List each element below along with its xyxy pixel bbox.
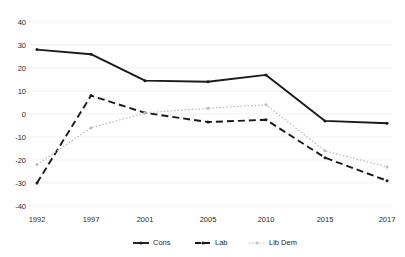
chart-canvas: 403020100-10-20-30-40 199219972001200520… xyxy=(0,0,405,257)
y-axis-tick-label: 30 xyxy=(18,41,26,50)
data-point xyxy=(386,165,389,168)
y-axis-tick-label: -40 xyxy=(15,202,26,211)
data-point xyxy=(36,182,39,185)
gridlines xyxy=(30,22,392,206)
y-axis-tick-label: 0 xyxy=(22,110,26,119)
chart-legend: ConsLabLib Dem xyxy=(133,238,297,247)
data-point xyxy=(144,111,147,114)
legend-swatch-marker xyxy=(255,241,258,244)
data-point xyxy=(324,149,327,152)
series-line xyxy=(37,50,387,124)
x-axis-tick-label: 2010 xyxy=(258,215,275,224)
legend-swatch-marker xyxy=(201,241,204,244)
x-axis-tick-label: 2005 xyxy=(200,215,217,224)
series-line xyxy=(37,96,387,183)
y-axis-tick-labels: 403020100-10-20-30-40 xyxy=(15,18,26,211)
x-axis-tick-label: 2001 xyxy=(137,215,154,224)
series-lib-dem xyxy=(36,103,389,168)
data-point xyxy=(324,156,327,159)
data-point xyxy=(265,103,268,106)
x-axis-tick-label: 2015 xyxy=(317,215,334,224)
data-point xyxy=(90,94,93,97)
data-point xyxy=(265,118,268,121)
legend-item-lab[interactable]: Lab xyxy=(195,238,228,247)
data-point xyxy=(90,126,93,129)
data-point xyxy=(386,122,389,125)
data-point xyxy=(207,121,210,124)
y-axis-tick-label: -10 xyxy=(15,133,26,142)
y-axis-tick-label: -20 xyxy=(15,156,26,165)
data-point xyxy=(207,80,210,83)
x-axis-tick-label: 2017 xyxy=(379,215,396,224)
series-lab xyxy=(36,94,389,184)
legend-swatch-marker xyxy=(139,241,142,244)
data-point xyxy=(36,48,39,51)
y-axis-tick-label: -30 xyxy=(15,179,26,188)
y-axis-tick-label: 10 xyxy=(18,87,26,96)
data-point xyxy=(90,53,93,56)
legend-label: Cons xyxy=(153,238,171,247)
y-axis-tick-label: 20 xyxy=(18,64,26,73)
y-axis-tick-label: 40 xyxy=(18,18,26,27)
legend-item-lib-dem[interactable]: Lib Dem xyxy=(249,238,297,247)
x-axis-tick-label: 1992 xyxy=(29,215,46,224)
x-axis-tick-labels: 1992199720012005201020152017 xyxy=(29,215,396,224)
legend-item-cons[interactable]: Cons xyxy=(133,238,171,247)
data-point xyxy=(265,73,268,76)
legend-label: Lab xyxy=(215,238,228,247)
x-axis-tick-label: 1997 xyxy=(83,215,100,224)
data-point xyxy=(386,179,389,182)
data-point xyxy=(144,79,147,82)
legend-label: Lib Dem xyxy=(269,238,297,247)
data-point xyxy=(36,163,39,166)
series-cons xyxy=(36,48,389,125)
data-series-layer xyxy=(36,48,389,184)
data-point xyxy=(207,107,210,110)
line-chart: 403020100-10-20-30-40 199219972001200520… xyxy=(0,0,405,257)
data-point xyxy=(324,119,327,122)
